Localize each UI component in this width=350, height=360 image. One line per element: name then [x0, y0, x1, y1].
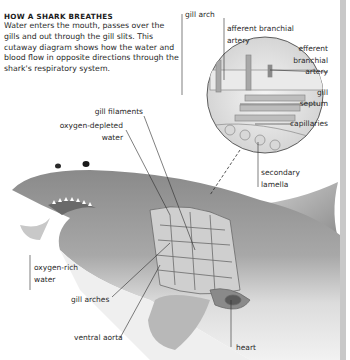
- label-secondary-line1: secondary: [261, 168, 300, 178]
- label-oxygen-rich-line2: water: [34, 275, 55, 285]
- label-gill-arch: gill arch: [185, 10, 215, 20]
- label-oxygen-depleted-line2: water: [102, 133, 123, 143]
- label-oxygen-rich-line1: oxygen-rich: [34, 263, 78, 273]
- intro-paragraph: Water enters the mouth, passes over the …: [4, 21, 182, 75]
- label-efferent-line2: branchial: [293, 56, 328, 66]
- label-afferent-line1: afferent branchial: [227, 24, 294, 34]
- label-efferent-line1: efferent: [298, 44, 328, 54]
- label-septum-line2: septum: [300, 99, 328, 109]
- label-heart: heart: [236, 343, 256, 353]
- label-ventral-aorta: ventral aorta: [74, 333, 123, 343]
- label-afferent-line2: artery: [227, 36, 250, 46]
- label-oxygen-depleted-line1: oxygen-depleted: [60, 121, 123, 131]
- label-gill-arches: gill arches: [71, 295, 109, 305]
- label-secondary-line2: lamella: [261, 180, 288, 190]
- section-heading: HOW A SHARK BREATHES: [4, 12, 182, 21]
- label-efferent-line3: artery: [305, 67, 328, 77]
- label-capillaries: capillaries: [290, 119, 328, 129]
- label-gill-filaments: gill filaments: [95, 107, 143, 117]
- label-septum-line1: gill: [317, 88, 328, 98]
- intro-block: HOW A SHARK BREATHES Water enters the mo…: [4, 12, 182, 75]
